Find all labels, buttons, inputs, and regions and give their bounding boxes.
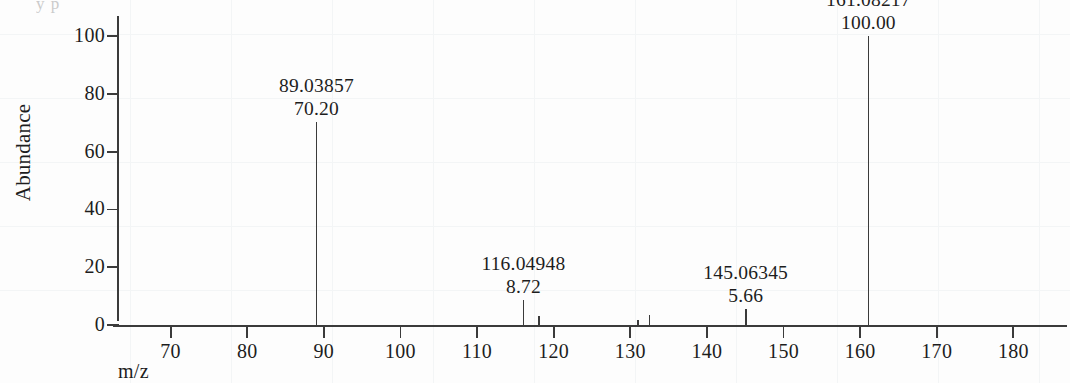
x-axis-tick bbox=[706, 327, 708, 338]
peak-intensity-label: 8.72 bbox=[481, 275, 565, 298]
spectrum-peak bbox=[868, 36, 870, 325]
y-axis-tick-label: 100 bbox=[47, 25, 105, 45]
y-axis-tick-label: 20 bbox=[47, 256, 105, 276]
peak-mz-label: 116.04948 bbox=[481, 252, 565, 275]
x-axis-tick bbox=[1012, 327, 1014, 338]
y-axis-title: Abundance bbox=[11, 78, 36, 228]
y-axis-tick-label: 80 bbox=[47, 83, 105, 103]
peak-annotation: 89.0385770.20 bbox=[279, 74, 354, 120]
peak-mz-label: 145.06345 bbox=[703, 261, 788, 284]
spectrum-peak bbox=[745, 309, 747, 325]
peaks-layer: 89.0385770.20116.049488.72145.063455.661… bbox=[117, 16, 1067, 325]
x-axis-tick-label: 140 bbox=[672, 340, 742, 362]
x-axis-tick bbox=[859, 327, 861, 338]
x-axis-tick bbox=[936, 327, 938, 338]
x-axis-tick bbox=[170, 327, 172, 338]
peak-mz-label: 89.03857 bbox=[279, 74, 354, 97]
x-axis-tick-label: 160 bbox=[825, 340, 895, 362]
x-axis-tick bbox=[323, 327, 325, 338]
spectrum-peak bbox=[649, 315, 651, 325]
peak-intensity-label: 5.66 bbox=[703, 284, 788, 307]
x-axis-tick-label: 180 bbox=[978, 340, 1048, 362]
x-axis-tick-label: 90 bbox=[289, 340, 359, 362]
peak-annotation: 145.063455.66 bbox=[703, 261, 788, 307]
x-axis-tick bbox=[400, 327, 402, 338]
x-axis-tick-label: 130 bbox=[595, 340, 665, 362]
x-axis-tick-label: 150 bbox=[749, 340, 819, 362]
x-axis-tick bbox=[783, 327, 785, 338]
y-axis-label-group: Abundance bbox=[0, 0, 100, 330]
peak-intensity-label: 100.00 bbox=[826, 11, 911, 34]
peak-mz-label: 161.08217 bbox=[826, 0, 911, 11]
y-axis-tick-label: 40 bbox=[47, 198, 105, 218]
x-axis-tick-label: 70 bbox=[136, 340, 206, 362]
x-axis-tick bbox=[246, 327, 248, 338]
y-axis-tick-label: 0 bbox=[47, 314, 105, 334]
x-axis-tick bbox=[629, 327, 631, 338]
y-axis-tick-label: 60 bbox=[47, 141, 105, 161]
spectrum-peak bbox=[523, 300, 525, 325]
x-axis-tick-label: 110 bbox=[442, 340, 512, 362]
x-axis-title: m/z bbox=[118, 361, 149, 381]
x-axis-tick-label: 170 bbox=[902, 340, 972, 362]
peak-intensity-label: 70.20 bbox=[279, 97, 354, 120]
x-axis-tick bbox=[476, 327, 478, 338]
x-axis-tick-label: 100 bbox=[365, 340, 435, 362]
peak-annotation: 116.049488.72 bbox=[481, 252, 565, 298]
x-axis-tick-label: 80 bbox=[212, 340, 282, 362]
mass-spectrum-figure: y p Abundance 020406080100 7080901001101… bbox=[0, 0, 1070, 383]
spectrum-peak bbox=[637, 320, 639, 325]
x-axis-tick-label: 120 bbox=[519, 340, 589, 362]
spectrum-peak bbox=[538, 316, 540, 325]
peak-annotation: 161.08217100.00 bbox=[826, 0, 911, 34]
plot-area: 89.0385770.20116.049488.72145.063455.661… bbox=[117, 16, 1067, 326]
spectrum-peak bbox=[316, 122, 318, 325]
x-axis-tick bbox=[553, 327, 555, 338]
